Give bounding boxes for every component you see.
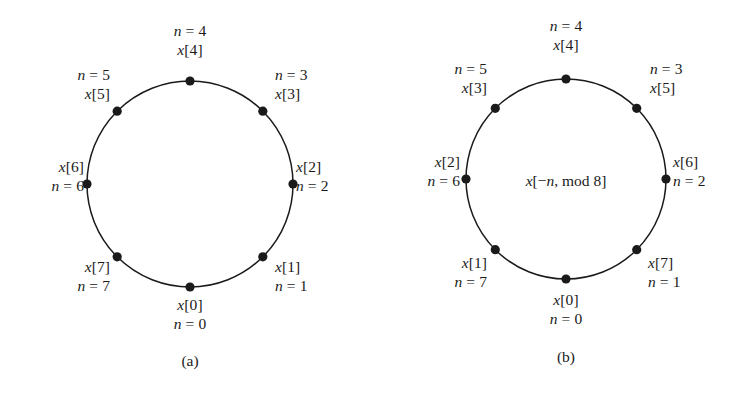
sample-label-n1: x[1]n = 1 bbox=[275, 258, 308, 296]
sample-text: x[1] bbox=[454, 254, 487, 273]
sample-label-n7: x[7]n = 7 bbox=[77, 258, 110, 296]
sample-text: x[5] bbox=[650, 79, 683, 98]
sample-label-n3: n = 3x[3] bbox=[275, 66, 308, 104]
sample-point-dot bbox=[461, 174, 470, 183]
sample-label-n2: x[6]n = 2 bbox=[673, 153, 706, 191]
sample-text: x[2] bbox=[427, 153, 460, 172]
index-text: n = 2 bbox=[296, 177, 329, 196]
sample-point-dot bbox=[561, 74, 570, 83]
sample-text: x[7] bbox=[77, 258, 110, 277]
sample-point-dot bbox=[258, 107, 267, 116]
diagram-panel-a: x[0]n = 0x[1]n = 1x[2]n = 2n = 3x[3]n = … bbox=[0, 0, 378, 397]
index-text: n = 7 bbox=[77, 277, 110, 296]
index-text: n = 3 bbox=[275, 66, 308, 85]
index-text: n = 1 bbox=[648, 273, 681, 292]
diagram-panel-b: x[0]n = 0x[7]n = 1x[6]n = 2n = 3x[5]n = … bbox=[378, 0, 755, 397]
index-text: n = 5 bbox=[454, 60, 487, 79]
index-text: n = 6 bbox=[427, 172, 460, 191]
sample-point-dot bbox=[632, 245, 641, 254]
sample-text: x[0] bbox=[550, 291, 583, 310]
sample-point-dot bbox=[185, 282, 194, 291]
sample-text: x[0] bbox=[174, 296, 207, 315]
sample-point-dot bbox=[661, 174, 670, 183]
index-text: n = 4 bbox=[174, 22, 207, 41]
sample-text: x[6] bbox=[673, 153, 706, 172]
sample-label-n1: x[7]n = 1 bbox=[648, 254, 681, 292]
sample-point-dot bbox=[561, 274, 570, 283]
sample-text: x[6] bbox=[51, 158, 84, 177]
sample-label-n5: n = 5x[3] bbox=[454, 60, 487, 98]
sample-label-n0: x[0]n = 0 bbox=[550, 291, 583, 329]
sample-point-dot bbox=[632, 104, 641, 113]
sample-point-dot bbox=[113, 107, 122, 116]
sample-text: x[4] bbox=[550, 36, 583, 55]
sample-point-dot bbox=[258, 252, 267, 261]
sample-text: x[4] bbox=[174, 41, 207, 60]
index-text: n = 7 bbox=[454, 273, 487, 292]
figure-caption-b: (b) bbox=[557, 348, 575, 366]
sample-label-n0: x[0]n = 0 bbox=[174, 296, 207, 334]
sample-label-n5: n = 5x[5] bbox=[77, 66, 110, 104]
index-text: n = 6 bbox=[51, 177, 84, 196]
index-text: n = 3 bbox=[650, 60, 683, 79]
sample-point-dot bbox=[185, 76, 194, 85]
sample-label-n6: x[6]n = 6 bbox=[51, 158, 84, 196]
index-text: n = 2 bbox=[673, 172, 706, 191]
index-text: n = 1 bbox=[275, 277, 308, 296]
sample-label-n3: n = 3x[5] bbox=[650, 60, 683, 98]
sample-label-n6: x[2]n = 6 bbox=[427, 153, 460, 191]
center-annotation-b: x[−n, mod 8] bbox=[526, 172, 607, 190]
circle-outline bbox=[87, 81, 293, 287]
index-text: n = 4 bbox=[550, 17, 583, 36]
index-text: n = 0 bbox=[550, 310, 583, 329]
figure-root: x[0]n = 0x[1]n = 1x[2]n = 2n = 3x[3]n = … bbox=[0, 0, 755, 397]
sample-label-n4: n = 4x[4] bbox=[550, 17, 583, 55]
sample-label-n2: x[2]n = 2 bbox=[296, 158, 329, 196]
index-text: n = 0 bbox=[174, 315, 207, 334]
sample-text: x[7] bbox=[648, 254, 681, 273]
sample-point-dot bbox=[113, 252, 122, 261]
sample-text: x[1] bbox=[275, 258, 308, 277]
index-text: n = 5 bbox=[77, 66, 110, 85]
figure-caption-a: (a) bbox=[181, 352, 198, 370]
sample-point-dot bbox=[491, 104, 500, 113]
sample-label-n4: n = 4x[4] bbox=[174, 22, 207, 60]
sample-point-dot bbox=[491, 245, 500, 254]
sample-text: x[3] bbox=[275, 85, 308, 104]
circle-diagram-b bbox=[378, 0, 755, 397]
sample-label-n7: x[1]n = 7 bbox=[454, 254, 487, 292]
sample-text: x[5] bbox=[77, 85, 110, 104]
sample-text: x[3] bbox=[454, 79, 487, 98]
sample-text: x[2] bbox=[296, 158, 329, 177]
